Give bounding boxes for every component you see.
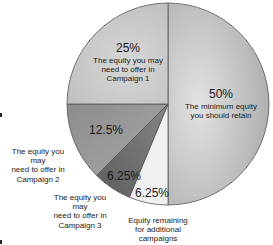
pct-6-25-remaining: 6.25% <box>134 187 170 201</box>
pct-12-5: 12.5% <box>86 124 126 138</box>
label-50: 50% The minimum equity you should retain <box>178 88 264 120</box>
edge-mark <box>0 240 2 244</box>
label-remaining: Equity remaining for additional campaign… <box>126 216 190 244</box>
edge-mark <box>0 113 2 117</box>
pct-25: 25% <box>88 42 168 56</box>
label-campaign3: The equity you may need to offer in Camp… <box>48 193 112 230</box>
label-25: 25% The equity you may need to offer in … <box>88 42 168 83</box>
pct-6-25-campaign3: 6.25% <box>106 170 142 184</box>
pie-chart <box>0 0 273 245</box>
pct-50: 50% <box>178 88 264 102</box>
label-campaign2: The equity you may need to offer in Camp… <box>6 147 70 184</box>
